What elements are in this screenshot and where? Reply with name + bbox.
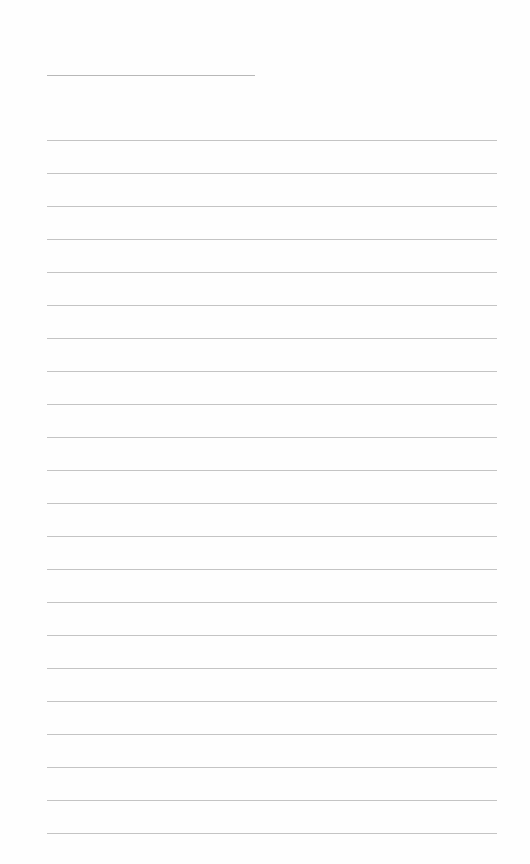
ruled-line [47,371,497,372]
ruled-line [47,437,497,438]
lined-paper-page [0,0,530,864]
ruled-line [47,602,497,603]
ruled-line [47,206,497,207]
ruled-line [47,536,497,537]
ruled-line [47,404,497,405]
ruled-line [47,503,497,504]
ruled-line [47,668,497,669]
ruled-line [47,635,497,636]
ruled-line [47,734,497,735]
header-name-line [47,75,255,76]
ruled-line [47,470,497,471]
ruled-line [47,272,497,273]
ruled-line [47,569,497,570]
ruled-line [47,800,497,801]
ruled-line [47,173,497,174]
ruled-line [47,338,497,339]
ruled-line [47,305,497,306]
ruled-line [47,239,497,240]
ruled-line [47,701,497,702]
ruled-line [47,140,497,141]
ruled-line [47,767,497,768]
ruled-line [47,833,497,834]
